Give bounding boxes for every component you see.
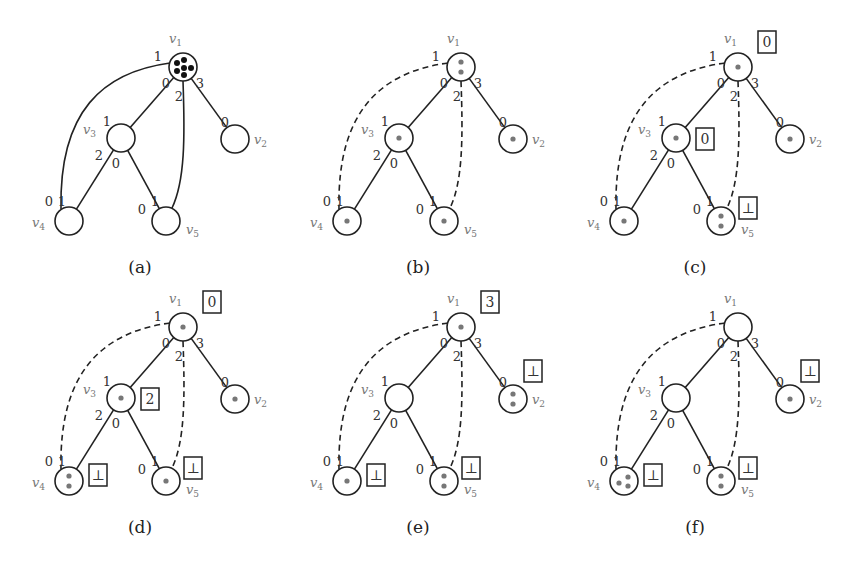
vertex-label-v2: v2 — [809, 392, 822, 409]
port-label: 1 — [58, 454, 66, 469]
port-label: 2 — [95, 148, 103, 163]
vertex-label-v2: v2 — [532, 392, 545, 409]
port-label: 2 — [95, 408, 103, 423]
port-label: 1 — [658, 374, 666, 389]
vertex-label-subscript: 5 — [471, 229, 477, 239]
vertex-label-v1: v1 — [724, 31, 737, 48]
port-label: 3 — [196, 76, 204, 91]
vertex-label-subscript: 3 — [368, 129, 374, 139]
port-label: 2 — [650, 148, 658, 163]
token-dot — [510, 401, 515, 406]
vertex-label-subscript: 2 — [816, 399, 822, 409]
vertex-label-v5: v5 — [186, 482, 199, 499]
token-dot — [344, 218, 349, 223]
edge-v3-v5 — [406, 410, 438, 468]
vertex-label-v4: v4 — [32, 475, 45, 492]
token-dot — [510, 391, 515, 396]
port-label: 3 — [196, 336, 204, 351]
vertex-label-v5: v5 — [464, 482, 477, 499]
state-box-value: ⊥ — [526, 363, 539, 379]
panel-d: 012130102100v10v2v32v4⊥v5⊥(d) — [32, 291, 267, 537]
port-label: 3 — [474, 76, 482, 91]
vertex-label-v4: v4 — [32, 215, 45, 232]
vertex-label-subscript: 4 — [317, 222, 323, 232]
token-dot — [625, 483, 630, 488]
vertex-label-v3: v3 — [83, 122, 96, 139]
token-dot — [181, 72, 187, 78]
port-label: 1 — [103, 114, 111, 129]
node-v4 — [55, 207, 83, 235]
state-box-value: ⊥ — [464, 460, 477, 476]
edge-v3-v5 — [683, 150, 715, 208]
port-label: 0 — [162, 76, 170, 91]
port-label: 3 — [751, 336, 759, 351]
port-label: 0 — [667, 416, 675, 431]
token-dot — [181, 65, 187, 71]
vertex-label-subscript: 3 — [645, 129, 651, 139]
vertex-label-v1: v1 — [724, 291, 737, 308]
panel-c: 012130102100v10v2v30v4v5⊥(c) — [587, 31, 822, 277]
edge-v3-v5 — [406, 150, 438, 208]
port-label: 1 — [154, 49, 162, 64]
port-label: 1 — [432, 49, 440, 64]
port-label: 0 — [440, 336, 448, 351]
port-label: 0 — [112, 156, 120, 171]
port-label: 0 — [667, 156, 675, 171]
token-dot — [174, 68, 180, 74]
vertex-label-subscript: 3 — [645, 389, 651, 399]
port-label: 0 — [162, 336, 170, 351]
vertex-label-subscript: 5 — [748, 489, 754, 499]
vertex-label-subscript: 3 — [90, 389, 96, 399]
node-v3 — [662, 384, 690, 412]
token-dot — [188, 65, 194, 71]
port-label: 1 — [381, 114, 389, 129]
port-label: 1 — [381, 374, 389, 389]
token-dot — [66, 473, 71, 478]
vertex-label-v1: v1 — [447, 31, 460, 48]
vertex-label-v4: v4 — [310, 215, 323, 232]
token-dot — [510, 136, 515, 141]
state-box-value: 2 — [146, 391, 155, 407]
token-dot — [458, 69, 463, 74]
port-label: 0 — [45, 454, 53, 469]
vertex-label-subscript: 2 — [261, 139, 267, 149]
vertex-label-v2: v2 — [809, 132, 822, 149]
port-label: 1 — [613, 454, 621, 469]
port-label: 0 — [440, 76, 448, 91]
port-label: 0 — [138, 202, 146, 217]
panel-caption: (b) — [406, 257, 430, 277]
vertex-label-subscript: 2 — [261, 399, 267, 409]
vertex-label-v4: v4 — [587, 215, 600, 232]
token-dot — [673, 135, 678, 140]
port-label: 2 — [453, 89, 461, 104]
vertex-label-subscript: 1 — [731, 38, 737, 48]
node-v5 — [430, 467, 458, 495]
vertex-label-v5: v5 — [741, 222, 754, 239]
vertex-label-subscript: 4 — [317, 482, 323, 492]
vertex-label-subscript: 5 — [471, 489, 477, 499]
node-v4 — [610, 467, 638, 495]
panel-f: 012130102100v1v2⊥v3v4⊥v5⊥(f) — [587, 291, 822, 537]
port-label: 0 — [416, 462, 424, 477]
port-label: 3 — [751, 76, 759, 91]
port-label: 0 — [390, 416, 398, 431]
vertex-label-subscript: 5 — [748, 229, 754, 239]
port-label: 0 — [323, 194, 331, 209]
edge-v3-v5 — [683, 410, 715, 468]
panel-caption: (e) — [406, 517, 429, 537]
vertex-label-subscript: 2 — [539, 139, 545, 149]
state-box-value: ⊥ — [646, 467, 659, 483]
port-label: 1 — [336, 194, 344, 209]
token-dot — [718, 483, 723, 488]
port-label: 0 — [323, 454, 331, 469]
port-label: 1 — [709, 309, 717, 324]
token-dot — [163, 478, 168, 483]
panel-caption: (f) — [685, 517, 705, 537]
port-label: 0 — [693, 462, 701, 477]
token-dot — [718, 223, 723, 228]
vertex-label-subscript: 4 — [39, 482, 45, 492]
panel-caption: (a) — [128, 257, 151, 277]
node-v5 — [707, 207, 735, 235]
token-dot — [616, 480, 621, 485]
port-label: 2 — [730, 89, 738, 104]
